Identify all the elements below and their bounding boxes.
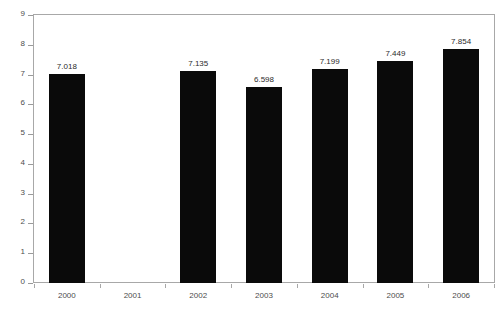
y-axis-tick-label: 1 [21, 247, 25, 257]
x-axis-tick-mark [100, 284, 101, 288]
y-axis-tick: 8 [0, 45, 33, 46]
y-axis-tick-label: 8 [21, 39, 25, 49]
x-axis-tick-label: 2005 [387, 291, 405, 301]
y-axis-tick: 4 [0, 164, 33, 165]
x-axis-tick-label: 2002 [189, 291, 207, 301]
bar-group: 7.135 [165, 15, 231, 283]
bar-group: 7.854 [428, 15, 494, 283]
y-axis-tick-label: 2 [21, 217, 25, 227]
x-axis-tick-label: 2000 [58, 291, 76, 301]
x-axis-tick: 2005 [363, 284, 429, 314]
y-axis-tick: 1 [0, 253, 33, 254]
y-axis-tick: 3 [0, 194, 33, 195]
plot-area: 7.0187.1356.5987.1997.4497.854 [34, 15, 494, 283]
y-axis-tick-label: 6 [21, 98, 25, 108]
y-axis-tick-label: 4 [21, 158, 25, 168]
bar[interactable] [377, 61, 413, 283]
y-axis-tick: 6 [0, 104, 33, 105]
bar[interactable] [49, 74, 85, 283]
bar-value-label: 6.598 [254, 75, 274, 84]
x-axis-tick-mark [363, 284, 364, 288]
x-axis-tick-mark [297, 284, 298, 288]
bar-value-label: 7.018 [57, 62, 77, 71]
x-axis-tick-label: 2001 [124, 291, 142, 301]
x-axis-tick-mark [231, 284, 232, 288]
y-axis-tick-label: 5 [21, 128, 25, 138]
x-axis-tick-label: 2003 [255, 291, 273, 301]
y-axis-tick: 0 [0, 283, 33, 284]
x-axis-tick: 2004 [297, 284, 363, 314]
x-axis-tick-label: 2004 [321, 291, 339, 301]
x-axis-tick: 2006 [428, 284, 494, 314]
bar-value-label: 7.449 [385, 49, 405, 58]
x-axis-tick: 2002 [165, 284, 231, 314]
bar[interactable] [246, 87, 282, 283]
x-axis-tick: 2000 [34, 284, 100, 314]
y-axis-tick: 2 [0, 223, 33, 224]
x-axis-tick [494, 284, 495, 314]
y-axis-tick-label: 3 [21, 188, 25, 198]
y-axis-tick-mark [28, 283, 33, 284]
bar-group: 7.018 [34, 15, 100, 283]
x-axis-tick: 2001 [100, 284, 166, 314]
y-axis: 0123456789 [0, 0, 33, 314]
x-axis: 2000200120022003200420052006 [34, 284, 494, 314]
bar-group: 7.449 [363, 15, 429, 283]
bar-value-label: 7.199 [320, 57, 340, 66]
y-axis-tick: 5 [0, 134, 33, 135]
x-axis-tick-mark [428, 284, 429, 288]
bar-chart: # Millions 0123456789 7.0187.1356.5987.1… [0, 0, 504, 314]
x-axis-tick: 2003 [231, 284, 297, 314]
x-axis-tick-mark [165, 284, 166, 288]
bar[interactable] [312, 69, 348, 283]
bar-value-label: 7.854 [451, 37, 471, 46]
bar-group: 6.598 [231, 15, 297, 283]
x-axis-tick-mark [494, 284, 495, 288]
bar-group: 7.199 [297, 15, 363, 283]
bar[interactable] [443, 49, 479, 283]
y-axis-tick: 7 [0, 75, 33, 76]
bar-value-label: 7.135 [188, 59, 208, 68]
y-axis-tick-label: 9 [21, 9, 25, 19]
bar[interactable] [180, 71, 216, 283]
x-axis-tick-mark [34, 284, 35, 288]
y-axis-tick-label: 0 [21, 277, 25, 287]
y-axis-tick-label: 7 [21, 69, 25, 79]
y-axis-tick: 9 [0, 15, 33, 16]
x-axis-tick-label: 2006 [452, 291, 470, 301]
bar-group [100, 15, 166, 283]
